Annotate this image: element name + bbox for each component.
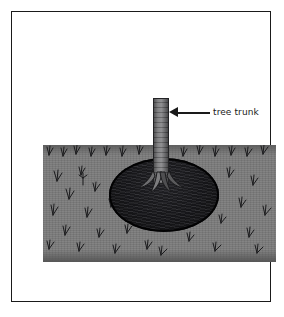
figure-border: tree trunk — [11, 11, 271, 302]
callout-label-tree-trunk: tree trunk — [213, 106, 259, 119]
callout-leader-line — [177, 112, 210, 114]
root-flare-icon — [139, 170, 183, 194]
figure-root: tree trunk — [0, 0, 284, 317]
